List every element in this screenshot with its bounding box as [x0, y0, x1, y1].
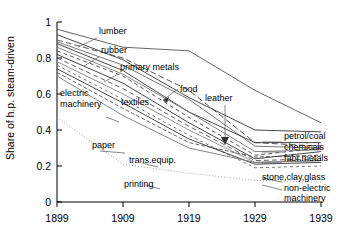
series-label-chemicals: chemicals	[284, 142, 325, 152]
series-label-fabr-metals: fabr.metals	[284, 153, 329, 163]
series-label-food: food	[180, 84, 198, 94]
y-tick-label-0.4: 0.4	[36, 124, 51, 136]
series-label-textiles: textiles	[121, 97, 150, 107]
series-label-electric-machinery: machinery	[60, 99, 102, 109]
y-axis-title: Share of h.p. steam-driven	[4, 36, 16, 160]
series-label-stone-clay-glass: stone,clay,glass	[262, 172, 326, 182]
chart-container: Share of h.p. steam-driven 1 0.8 0.6 0.4…	[0, 0, 346, 246]
x-axis-ticks	[57, 202, 321, 207]
series-line-primary-metals	[57, 42, 321, 148]
x-tick-label-1929: 1929	[243, 212, 267, 224]
x-tick-label-1899: 1899	[45, 212, 69, 224]
series-label-lumber: lumber	[99, 26, 127, 36]
y-tick-label-1: 1	[45, 16, 51, 28]
y-tick-label-0.6: 0.6	[36, 88, 51, 100]
series-label-electric: electric	[60, 88, 89, 98]
series-label-primary-metals: primary metals	[120, 62, 180, 72]
annotation-leaders	[78, 38, 282, 190]
y-tick-label-0.8: 0.8	[36, 52, 51, 64]
series-label-leather: leather	[205, 93, 233, 103]
series-label-trans-equip: trans.equip.	[129, 155, 176, 165]
series-label-rubber: rubber	[101, 45, 127, 55]
series-label-petrol-coal: petrol/coal	[284, 131, 326, 141]
series-label-non-electric: non-electric	[284, 183, 331, 193]
y-tick-label-0: 0	[45, 196, 51, 208]
x-tick-label-1909: 1909	[111, 212, 135, 224]
x-tick-label-1939: 1939	[309, 212, 333, 224]
series-label-paper: paper	[92, 140, 115, 150]
steam-share-line-chart: Share of h.p. steam-driven 1 0.8 0.6 0.4…	[0, 0, 346, 246]
series-label-printing: printing	[124, 179, 154, 189]
y-tick-label-0.2: 0.2	[36, 160, 51, 172]
x-tick-label-1919: 1919	[177, 212, 201, 224]
series-label-non-electric-machinery: machinery	[284, 193, 326, 203]
